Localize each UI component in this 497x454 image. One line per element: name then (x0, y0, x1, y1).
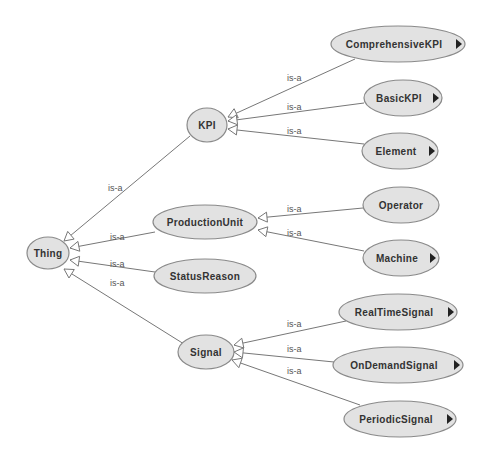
edge-ondemandsignal-to-signal: is-a (234, 344, 334, 362)
class-node-periodicsignal[interactable]: PeriodicSignal (344, 401, 456, 437)
edge-operator-to-productionunit: is-a (258, 204, 363, 222)
edge-label: is-a (287, 102, 302, 112)
node-label: Element (375, 146, 416, 157)
edge-label: is-a (287, 204, 302, 214)
edge-label: is-a (108, 183, 123, 193)
node-label: ComprehensiveKPI (346, 39, 443, 50)
hollow-arrowhead-icon (64, 269, 74, 278)
class-node-machine[interactable]: Machine (363, 240, 439, 276)
node-label: OnDemandSignal (350, 360, 438, 371)
node-label: RealTimeSignal (355, 307, 434, 318)
nodes-layer: ThingKPIProductionUnitStatusReasonSignal… (27, 26, 465, 437)
node-label: PeriodicSignal (359, 414, 433, 425)
hollow-arrowhead-icon (234, 348, 243, 358)
class-node-realtimesignal[interactable]: RealTimeSignal (339, 294, 457, 330)
edge-productionunit-to-thing: is-a (70, 232, 155, 251)
node-label: BasicKPI (376, 93, 422, 104)
hollow-arrowhead-icon (70, 241, 80, 251)
node-label: KPI (198, 120, 216, 131)
edge-label: is-a (110, 278, 125, 288)
edge-label: is-a (287, 73, 302, 83)
hollow-arrowhead-icon (232, 358, 242, 367)
edge-statusreason-to-thing: is-a (70, 256, 155, 272)
edge-element-to-kpi: is-a (228, 125, 364, 144)
edge-basickpi-to-kpi: is-a (228, 102, 364, 125)
edge-label: is-a (287, 366, 302, 376)
edge-label: is-a (287, 228, 302, 238)
node-label: Operator (379, 200, 424, 211)
edge-label: is-a (110, 232, 125, 242)
hollow-arrowhead-icon (70, 256, 80, 266)
class-node-operator[interactable]: Operator (363, 187, 439, 223)
edge-label: is-a (287, 126, 302, 136)
hollow-arrowhead-icon (258, 212, 267, 222)
node-label: ProductionUnit (167, 217, 244, 228)
class-node-kpi[interactable]: KPI (187, 108, 227, 142)
edge-machine-to-productionunit: is-a (258, 227, 364, 251)
hollow-arrowhead-icon (64, 231, 74, 241)
ontology-graph-canvas[interactable]: is-ais-ais-ais-ais-ais-ais-ais-ais-ais-a… (0, 0, 497, 454)
hollow-arrowhead-icon (228, 125, 237, 135)
class-node-signal[interactable]: Signal (178, 335, 234, 369)
hollow-arrowhead-icon (258, 227, 268, 237)
edge-label: is-a (287, 319, 302, 329)
node-label: Machine (376, 253, 418, 264)
edge-line (234, 352, 334, 362)
hollow-arrowhead-icon (234, 338, 244, 348)
class-node-statusreason[interactable]: StatusReason (154, 259, 256, 293)
node-label: Signal (190, 347, 222, 358)
class-node-productionunit[interactable]: ProductionUnit (153, 205, 257, 239)
class-node-comprehensivekpi[interactable]: ComprehensiveKPI (331, 26, 465, 62)
node-label: Thing (34, 248, 63, 259)
edge-line (258, 208, 363, 218)
edge-label: is-a (287, 344, 302, 354)
node-label: StatusReason (170, 271, 240, 282)
class-node-basickpi[interactable]: BasicKPI (364, 80, 442, 116)
class-node-element[interactable]: Element (362, 133, 438, 169)
class-node-ondemandsignal[interactable]: OnDemandSignal (333, 347, 463, 383)
edge-label: is-a (110, 259, 125, 269)
edge-line (258, 230, 364, 251)
class-node-thing[interactable]: Thing (27, 237, 69, 269)
